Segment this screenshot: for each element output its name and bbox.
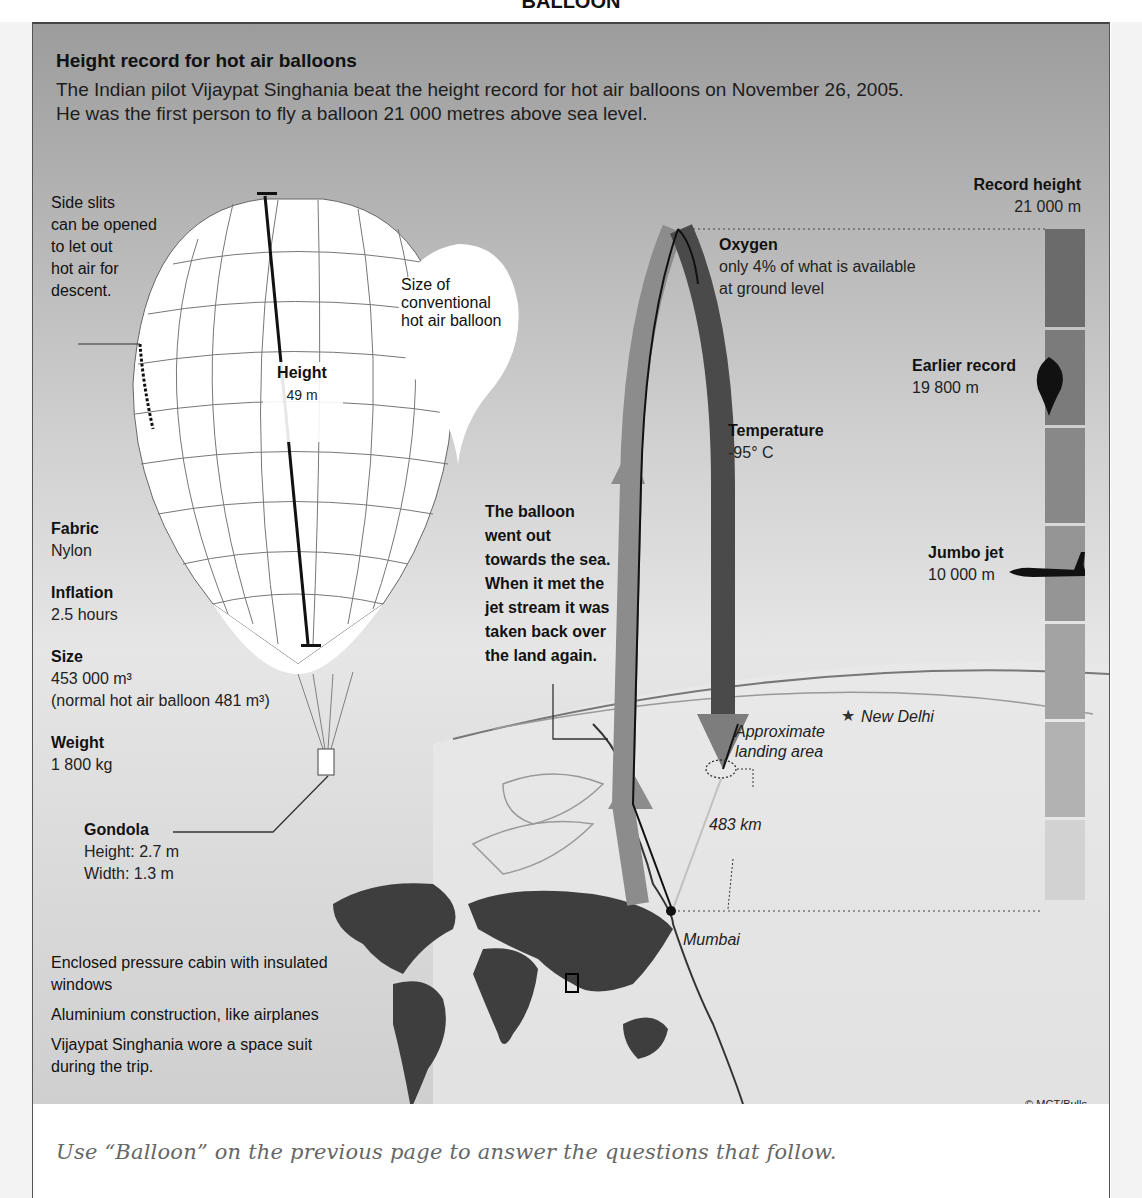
spec-value: 453 000 m³ — [51, 668, 270, 690]
jumbo-jet: Jumbo jet 10 000 m — [928, 542, 1004, 586]
cabin-fact-line: Vijaypat Singhania wore a space suit — [51, 1034, 328, 1056]
route-description: The balloon went out towards the sea. Wh… — [485, 500, 610, 668]
cabin-fact-line: Aluminium construction, like airplanes — [51, 1004, 328, 1026]
new-delhi-label: New Delhi — [861, 706, 934, 728]
cabin-fact-line: Enclosed pressure cabin with insulated — [51, 952, 328, 974]
landing-area-label: Approximate landing area — [735, 722, 825, 762]
specs-list: Fabric Nylon Inflation 2.5 hours Size 45… — [51, 518, 270, 776]
temperature-value: -95° C — [728, 442, 824, 464]
route-line: When it met the — [485, 572, 610, 596]
spec-label: Fabric — [51, 518, 270, 540]
intro-line-1: The Indian pilot Vijaypat Singhania beat… — [56, 78, 904, 102]
earlier-record: Earlier record 19 800 m — [912, 355, 1016, 399]
side-slits-line: to let out — [51, 236, 157, 258]
mumbai-label: Mumbai — [683, 929, 740, 951]
jumbo-jet-label: Jumbo jet — [928, 542, 1004, 564]
credit: © MCT/Bulls — [1025, 1098, 1087, 1104]
conventional-line: Size of — [401, 276, 502, 294]
earlier-record-label: Earlier record — [912, 355, 1016, 377]
cabin-fact-line: windows — [51, 974, 328, 996]
right-margin — [1111, 22, 1142, 1198]
spec-inflation: Inflation 2.5 hours — [51, 582, 270, 626]
cabin-fact: Enclosed pressure cabin with insulated w… — [51, 952, 328, 996]
side-slits-line: can be opened — [51, 214, 157, 236]
route-line: the land again. — [485, 644, 610, 668]
spec-note: (normal hot air balloon 481 m³) — [51, 690, 270, 712]
conventional-line: hot air balloon — [401, 312, 502, 330]
gondola-width: Width: 1.3 m — [84, 863, 179, 885]
route-line: jet stream it was — [485, 596, 610, 620]
footer-instruction: Use “Balloon” on the previous page to an… — [56, 1140, 837, 1164]
intro-line-2: He was the first person to fly a balloon… — [56, 102, 647, 126]
spec-value: 2.5 hours — [51, 604, 270, 626]
infographic-panel: ★ Height record for hot air balloons The… — [33, 24, 1109, 1104]
spec-label: Inflation — [51, 582, 270, 604]
spec-size: Size 453 000 m³ (normal hot air balloon … — [51, 646, 270, 712]
jumbo-jet-value: 10 000 m — [928, 564, 1004, 586]
temperature-info: Temperature -95° C — [728, 420, 824, 464]
route-line: taken back over — [485, 620, 610, 644]
spec-fabric: Fabric Nylon — [51, 518, 270, 562]
spec-value: Nylon — [51, 540, 270, 562]
side-slits-note: Side slits can be opened to let out hot … — [51, 192, 157, 302]
page-title: BALLOON — [0, 0, 1142, 13]
distance-label: 483 km — [709, 814, 761, 836]
left-margin — [0, 22, 32, 1198]
spec-label: Size — [51, 646, 270, 668]
height-label: Height — [273, 362, 331, 384]
gondola-label: Gondola — [84, 819, 179, 841]
conventional-balloon-label: Size of conventional hot air balloon — [401, 276, 502, 330]
landing-area-line: landing area — [735, 742, 825, 762]
oxygen-line: only 4% of what is available — [719, 256, 916, 278]
cabin-fact-line: during the trip. — [51, 1056, 328, 1078]
record-height-label: Record height — [973, 174, 1081, 196]
route-line: towards the sea. — [485, 548, 610, 572]
oxygen-label: Oxygen — [719, 234, 916, 256]
side-slits-line: descent. — [51, 280, 157, 302]
temperature-label: Temperature — [728, 420, 824, 442]
oxygen-line: at ground level — [719, 278, 916, 300]
gondola-info: Gondola Height: 2.7 m Width: 1.3 m — [84, 819, 179, 885]
spec-value: 1 800 kg — [51, 754, 270, 776]
cabin-fact: Vijaypat Singhania wore a space suit dur… — [51, 1034, 328, 1078]
side-slits-line: hot air for — [51, 258, 157, 280]
route-line: went out — [485, 524, 610, 548]
gondola-height: Height: 2.7 m — [84, 841, 179, 863]
spec-label: Weight — [51, 732, 270, 754]
earlier-record-value: 19 800 m — [912, 377, 1016, 399]
cabin-fact: Aluminium construction, like airplanes — [51, 1004, 328, 1026]
infographic-title: Height record for hot air balloons — [56, 50, 357, 72]
star-icon: ★ — [841, 706, 855, 725]
oxygen-info: Oxygen only 4% of what is available at g… — [719, 234, 916, 300]
cabin-facts: Enclosed pressure cabin with insulated w… — [51, 952, 328, 1078]
record-height: Record height 21 000 m — [973, 174, 1081, 218]
height-value: 49 m — [273, 384, 331, 406]
height-annotation: Height 49 m — [273, 362, 331, 406]
conventional-line: conventional — [401, 294, 502, 312]
spec-weight: Weight 1 800 kg — [51, 732, 270, 776]
landing-area-line: Approximate — [735, 722, 825, 742]
record-height-value: 21 000 m — [973, 196, 1081, 218]
route-line: The balloon — [485, 500, 610, 524]
side-slits-line: Side slits — [51, 192, 157, 214]
